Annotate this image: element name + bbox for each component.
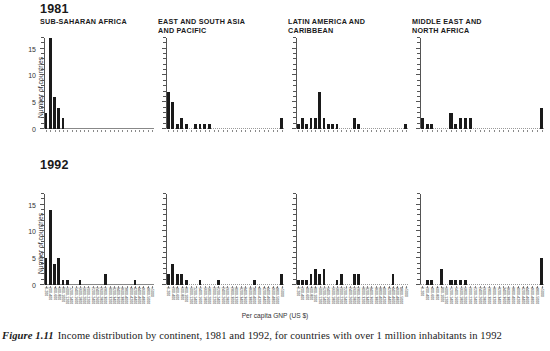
x-axis-tick-label: 4600-4800 bbox=[270, 287, 274, 304]
figure-caption: Figure 1.11Income distribution by contin… bbox=[2, 330, 548, 341]
panel-title: SUB-SAHARAN AFRICA bbox=[40, 17, 127, 26]
x-axis-tick bbox=[80, 130, 81, 132]
x-axis-tick bbox=[484, 130, 485, 132]
y-axis-tick-label: 10 bbox=[28, 228, 36, 235]
x-axis-tick-label: 3600-3800 bbox=[505, 287, 509, 304]
x-axis-tick bbox=[110, 130, 111, 132]
x-axis-tick bbox=[196, 130, 197, 132]
panel-title: LATIN AMERICA AND CARIBBEAN bbox=[288, 17, 365, 35]
plot-area: 0-200200-400400-600600-800800-10001000-1… bbox=[288, 194, 410, 297]
x-axis-tick bbox=[223, 130, 224, 132]
plot-area bbox=[158, 38, 286, 141]
x-axis-tick-label: 4400-4600 bbox=[265, 287, 269, 304]
x-axis-tick bbox=[127, 130, 128, 132]
x-axis-tick-label: 4000-4200 bbox=[256, 287, 260, 304]
x-axis-tick bbox=[277, 130, 278, 132]
x-axis-tick bbox=[152, 130, 153, 132]
x-axis-tick bbox=[67, 130, 68, 132]
bar bbox=[469, 118, 472, 129]
bar bbox=[280, 118, 283, 129]
y-axis-tick-label: 10 bbox=[28, 72, 36, 79]
bar bbox=[357, 274, 360, 285]
x-axis-tick bbox=[513, 130, 514, 132]
x-axis-tick bbox=[499, 130, 500, 132]
x-axis-tick-label: 4600-4800 bbox=[141, 287, 145, 304]
bar bbox=[45, 113, 48, 129]
bar-group bbox=[166, 38, 284, 129]
x-axis-tick-label: 3000-3200 bbox=[360, 287, 364, 304]
x-axis-tick bbox=[422, 130, 423, 132]
x-axis-tick-label: 2400-2600 bbox=[347, 287, 351, 304]
x-axis-tick bbox=[218, 130, 219, 132]
x-axis-tick bbox=[268, 130, 269, 132]
x-axis-tick bbox=[63, 130, 64, 132]
x-axis-tick-label: 4800-5000 bbox=[399, 287, 403, 304]
x-axis-tick-label: 3000-3200 bbox=[234, 287, 238, 304]
x-axis-tick-label: 4200-4400 bbox=[520, 287, 524, 304]
x-axis-tick-label: 3200-3400 bbox=[111, 287, 115, 304]
plot-inner: 0-200200-400400-600600-800800-10001000-1… bbox=[296, 194, 408, 285]
x-axis-tick-label: 3800-4000 bbox=[252, 287, 256, 304]
x-axis-tick-label: >5000 bbox=[149, 287, 153, 297]
x-axis-tick bbox=[363, 130, 364, 132]
x-axis-tick-label: 200-400 bbox=[424, 287, 428, 300]
y-axis-title: Number of countries bbox=[37, 56, 44, 117]
x-axis-tick bbox=[393, 130, 394, 132]
x-axis-tick-label: 1200-1400 bbox=[69, 287, 73, 304]
x-axis-tick-label: >5000 bbox=[403, 287, 407, 297]
x-axis-tick bbox=[50, 130, 51, 132]
x-axis-tick bbox=[84, 130, 85, 132]
x-axis-tick bbox=[55, 130, 56, 132]
x-axis-tick-label: 4800-5000 bbox=[274, 287, 278, 304]
bar bbox=[314, 118, 317, 129]
panel-1992-east-south-asia-pacific: 0-200200-400400-600600-800800-10001000-1… bbox=[158, 158, 286, 308]
x-axis-tick-label: 3400-3600 bbox=[243, 287, 247, 304]
bar bbox=[53, 264, 56, 285]
x-axis-tick bbox=[273, 130, 274, 132]
x-axis-tick bbox=[328, 130, 329, 132]
x-axis-tick-label: 4800-5000 bbox=[145, 287, 149, 304]
x-axis-tick bbox=[76, 130, 77, 132]
bar bbox=[62, 118, 65, 129]
x-axis-tick-label: 200-400 bbox=[47, 287, 51, 300]
bar bbox=[323, 118, 326, 129]
x-axis-tick bbox=[177, 130, 178, 132]
bar bbox=[314, 269, 317, 285]
x-axis-tick-label: 1600-1800 bbox=[458, 287, 462, 304]
x-axis-tick-label: >5000 bbox=[539, 287, 543, 297]
bar bbox=[421, 118, 424, 129]
bar bbox=[49, 210, 52, 285]
x-axis-tick bbox=[350, 130, 351, 132]
bar bbox=[340, 274, 343, 285]
x-axis-tick-label: 600-800 bbox=[56, 287, 60, 300]
x-axis-tick bbox=[354, 130, 355, 132]
x-axis-tick-label: 2000-2200 bbox=[86, 287, 90, 304]
panel-1992-latin-america-caribbean: 0-200200-400400-600600-800800-10001000-1… bbox=[288, 158, 410, 308]
x-axis-tick bbox=[186, 130, 187, 132]
x-axis-ticks bbox=[420, 129, 544, 132]
x-axis-tick-label: 4000-4200 bbox=[381, 287, 385, 304]
x-axis-title: Per capita GNP (US $) bbox=[0, 312, 550, 319]
x-axis-tick-label: 2000-2200 bbox=[211, 287, 215, 304]
y-axis-tick-label: 5 bbox=[32, 255, 36, 262]
bar bbox=[53, 97, 56, 129]
x-axis-tick-label: 400-600 bbox=[175, 287, 179, 300]
x-axis-tick bbox=[337, 130, 338, 132]
x-axis-tick bbox=[346, 130, 347, 132]
x-axis-tick bbox=[508, 130, 509, 132]
plot-inner: 0-200200-400400-600600-800800-10001000-1… bbox=[420, 194, 544, 285]
x-axis-tick bbox=[367, 130, 368, 132]
bar bbox=[167, 92, 170, 129]
chart-row-1981: 1981 SUB-SAHARAN AFRICA Number of countr… bbox=[0, 2, 550, 152]
x-axis-tick-label: 400-600 bbox=[304, 287, 308, 300]
x-axis-tick bbox=[105, 130, 106, 132]
x-axis-tick bbox=[131, 130, 132, 132]
x-axis-tick bbox=[333, 130, 334, 132]
x-axis-tick bbox=[432, 130, 433, 132]
x-axis-tick bbox=[236, 130, 237, 132]
x-axis-tick-label: 400-600 bbox=[52, 287, 56, 300]
x-axis-tick-label: 1800-2000 bbox=[463, 287, 467, 304]
x-axis-tick bbox=[389, 130, 390, 132]
figure-number: Figure 1.11 bbox=[2, 330, 54, 341]
x-axis-tick bbox=[148, 130, 149, 132]
